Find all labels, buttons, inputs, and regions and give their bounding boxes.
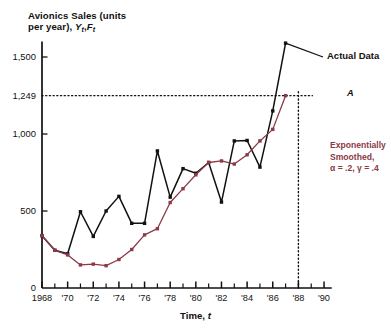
annotation-leaders [286,43,323,57]
series-line-smoothed [42,96,286,266]
marker-smoothed-1973 [104,264,107,267]
marker-smoothed-1975 [130,248,133,251]
marker-smoothed-1976 [143,233,146,236]
x-axis-title: Time, t [0,310,391,321]
y-tick-label-0: 0 [0,282,36,293]
leader-line-actual-data [286,43,323,57]
annotation-smoothed-line2: Smoothed, [330,152,374,162]
marker-actual-1985 [258,165,261,168]
y-tick-label-1500: 1,500 [0,51,36,62]
marker-smoothed-1984 [245,153,248,156]
marker-smoothed-1969 [53,249,56,252]
marker-actual-1972 [92,235,95,238]
avionics-sales-chart: Avionics Sales (unitsper year), Yt,Ft 1,… [0,0,391,330]
marker-smoothed-1971 [79,263,82,266]
marker-smoothed-1985 [258,139,261,142]
y-tick-label-500: 500 [0,205,36,216]
marker-actual-1973 [104,209,107,212]
annotation-smoothed-line3: α = .2, γ = .4 [330,163,379,173]
marker-smoothed-1986 [271,128,274,131]
marker-actual-1976 [143,222,146,225]
marker-smoothed-1972 [92,262,95,265]
marker-actual-1974 [117,195,120,198]
x-tick-label-1990: '90 [307,293,341,303]
marker-actual-1984 [245,139,248,142]
marker-smoothed-1981 [207,161,210,164]
annotation-smoothed-line1: Exponentially [330,140,386,150]
marker-actual-1971 [79,210,82,213]
marker-smoothed-1977 [156,227,159,230]
marker-actual-1982 [220,200,223,203]
y-tick-label-1000: 1,000 [0,128,36,139]
y-tick-label-1249: 1,249 [0,90,36,101]
annotation-smoothed: ExponentiallySmoothed,α = .2, γ = .4 [330,140,386,175]
marker-actual-1986 [271,109,274,112]
x-axis-title-italic: t [208,310,211,321]
marker-actual-1977 [156,149,159,152]
axis-ticks [42,57,324,288]
annotation-point-a: A [347,88,354,99]
marker-smoothed-1983 [233,162,236,165]
marker-smoothed-1979 [181,187,184,190]
marker-actual-1979 [181,167,184,170]
marker-smoothed-1968 [40,234,43,237]
reference-lines [42,92,312,288]
marker-smoothed-1974 [117,258,120,261]
series-line-actual [42,43,286,254]
marker-actual-1975 [130,222,133,225]
marker-smoothed-1987 [284,94,287,97]
annotation-actual-data: Actual Data [327,50,379,61]
x-axis-title-main: Time, [180,310,208,321]
marker-smoothed-1982 [220,159,223,162]
marker-smoothed-1980 [194,173,197,176]
axis-lines [42,42,332,288]
marker-actual-1983 [233,139,236,142]
marker-smoothed-1970 [66,253,69,256]
data-series [40,41,287,267]
marker-actual-1978 [169,195,172,198]
marker-smoothed-1978 [169,201,172,204]
